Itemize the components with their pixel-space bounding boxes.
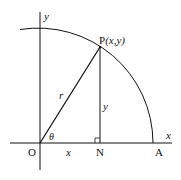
point-p-dot [99,46,101,48]
point-p-label: P(x,y) [99,34,125,47]
radius-label: r [59,89,64,101]
diagram-canvas: y x P(x,y) r y θ O x N A [0,0,181,180]
right-angle-marker [95,138,100,143]
foot-n-label: N [96,146,104,158]
vertical-segment-label: y [102,100,108,112]
y-axis-label: y [43,10,49,22]
horizontal-segment-label: x [65,146,71,158]
radius-segment-op [40,47,100,143]
origin-label: O [28,146,36,158]
arc-end-a-label: A [155,146,163,158]
x-axis-label: x [165,129,171,141]
angle-theta-label: θ [49,131,54,142]
